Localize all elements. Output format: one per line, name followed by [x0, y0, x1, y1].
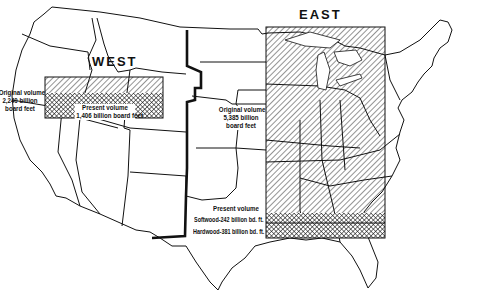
west-original-volume-label: Original volume 2,240 billion board feet — [0, 89, 41, 113]
east-west-divider — [152, 30, 201, 238]
west-present-line-2: 1,406 billion board feet — [76, 112, 133, 120]
west-original-line-3: board feet — [0, 105, 41, 113]
east-volume-box — [266, 27, 385, 238]
us-outline — [12, 7, 452, 290]
east-present-volume-heading: Present volume — [211, 205, 260, 213]
west-present-volume-label: Present volume 1,406 billion board feet — [75, 104, 136, 120]
region-title-east: EAST — [299, 8, 342, 22]
east-original-line-3: board feet — [219, 122, 263, 130]
us-timber-volume-map — [0, 0, 483, 305]
east-original-volume-label: Original volume 5,385 billion board feet — [217, 106, 265, 130]
east-softwood-volume: Softwood-242 billion bd. ft. — [194, 216, 263, 223]
region-title-west: WEST — [92, 55, 138, 69]
east-hardwood-volume: Hardwood-381 billion bd. ft. — [193, 228, 264, 235]
